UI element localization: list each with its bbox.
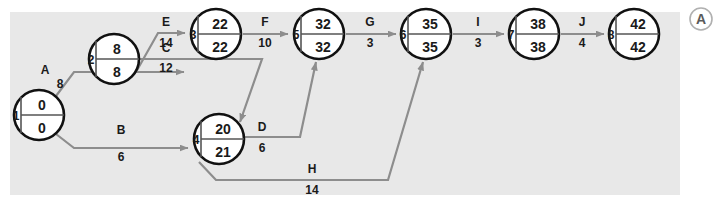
node-6-early-time: 35	[422, 16, 438, 32]
edge-label-F-name: F	[261, 15, 268, 29]
node-6-number: 6	[400, 28, 407, 42]
edge-label-H-duration: 14	[305, 183, 319, 197]
network-diagram: A 8 B 6 E 14 C 12 F 10 D 6 H 14 G 3 I 3 …	[0, 0, 717, 207]
edge-label-C-name: C	[162, 41, 171, 55]
node-7-number: 7	[508, 28, 515, 42]
node-1[interactable]: 1 0 0	[13, 90, 64, 140]
node-1-number: 1	[13, 109, 20, 123]
node-6-late-time: 35	[422, 39, 438, 55]
node-3-early-time: 22	[212, 16, 228, 32]
node-8-late-time: 42	[630, 39, 646, 55]
node-8-early-time: 42	[630, 16, 646, 32]
edge-label-G-name: G	[365, 15, 374, 29]
edge-label-E-name: E	[162, 15, 170, 29]
node-3[interactable]: 3 22 22	[190, 9, 241, 59]
node-8-number: 8	[608, 28, 615, 42]
node-4-early-time: 20	[215, 121, 231, 137]
edge-label-J-name: J	[579, 15, 586, 29]
node-6[interactable]: 6 35 35	[400, 9, 451, 59]
edge-label-B-name: B	[117, 123, 126, 137]
node-5[interactable]: 5 32 32	[293, 9, 344, 59]
node-2-late-time: 8	[113, 64, 121, 80]
node-7-early-time: 38	[530, 16, 546, 32]
edge-C	[140, 59, 262, 122]
edge-label-C-duration: 12	[159, 61, 173, 75]
node-2[interactable]: 2 8 8	[88, 34, 139, 84]
edge-label-H-name: H	[308, 162, 317, 176]
node-5-early-time: 32	[315, 16, 331, 32]
figure-part-badge-label: A	[696, 11, 706, 27]
node-4-late-time: 21	[215, 144, 231, 160]
node-8[interactable]: 8 42 42	[608, 9, 659, 59]
edge-label-J-duration: 4	[579, 36, 586, 50]
node-1-late-time: 0	[38, 120, 46, 136]
edge-label-D-duration: 6	[259, 141, 266, 155]
edge-label-F-duration: 10	[258, 36, 272, 50]
edge-label-A-duration: 8	[57, 77, 64, 91]
node-3-late-time: 22	[212, 39, 228, 55]
edge-label-A-name: A	[41, 63, 50, 77]
node-7[interactable]: 7 38 38	[508, 9, 559, 59]
diagram-canvas: A 8 B 6 E 14 C 12 F 10 D 6 H 14 G 3 I 3 …	[0, 0, 717, 207]
node-2-number: 2	[88, 53, 95, 67]
node-4-number: 4	[193, 133, 200, 147]
node-7-late-time: 38	[530, 39, 546, 55]
node-5-number: 5	[293, 28, 300, 42]
edge-label-I-duration: 3	[475, 36, 482, 50]
edge-D	[245, 62, 316, 137]
node-3-number: 3	[190, 28, 197, 42]
edge-label-B-duration: 6	[118, 150, 125, 164]
edge-label-I-name: I	[476, 15, 479, 29]
figure-part-badge: A	[690, 8, 712, 30]
node-4[interactable]: 4 20 21	[193, 114, 244, 164]
node-2-early-time: 8	[113, 41, 121, 57]
node-5-late-time: 32	[315, 39, 331, 55]
node-1-early-time: 0	[38, 97, 46, 113]
edge-label-G-duration: 3	[367, 36, 374, 50]
edge-label-D-name: D	[258, 120, 267, 134]
